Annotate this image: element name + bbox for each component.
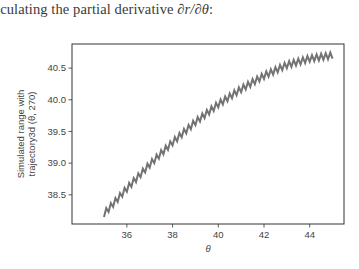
x-tick-label: 42: [259, 229, 270, 240]
line-chart: 3638404244 38.539.039.540.040.5 θ Simula…: [0, 0, 359, 269]
x-axis-ticks: 3638404244: [122, 224, 315, 240]
y-tick-label: 38.5: [48, 189, 67, 200]
x-axis-label: θ: [205, 243, 211, 254]
plot-frame: [72, 44, 344, 224]
y-tick-label: 40.0: [48, 94, 67, 105]
x-tick-label: 44: [304, 229, 315, 240]
data-series-line: [104, 53, 333, 217]
x-tick-label: 40: [213, 229, 224, 240]
y-axis-label-line2: trajectory3d (θ, 270): [26, 91, 37, 176]
y-axis-ticks: 38.539.039.540.040.5: [48, 62, 73, 200]
series-polyline: [104, 53, 333, 217]
y-axis-label-line1: Simulated range with: [15, 90, 26, 179]
y-tick-label: 40.5: [48, 62, 67, 73]
y-tick-label: 39.5: [48, 126, 67, 137]
x-tick-label: 38: [167, 229, 178, 240]
x-tick-label: 36: [122, 229, 133, 240]
y-axis-label: Simulated range with trajectory3d (θ, 27…: [15, 90, 37, 179]
y-tick-label: 39.0: [48, 157, 67, 168]
